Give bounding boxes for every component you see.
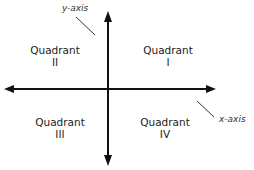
quadrant-3-label: Quadrant III xyxy=(25,116,95,140)
quadrant-numeral: IV xyxy=(130,128,200,140)
coordinate-plane xyxy=(0,0,254,170)
quadrant-4-label: Quadrant IV xyxy=(130,116,200,140)
quadrant-numeral: I xyxy=(133,56,203,68)
x-axis-leader-line xyxy=(197,101,214,117)
y-axis-up-arrow-icon xyxy=(104,11,112,22)
quadrant-word: Quadrant xyxy=(25,116,95,128)
x-axis-label: x-axis xyxy=(219,114,246,124)
y-axis-down-arrow-icon xyxy=(104,155,112,166)
quadrant-word: Quadrant xyxy=(20,44,90,56)
y-axis-label: y-axis xyxy=(62,3,88,13)
quadrant-1-label: Quadrant I xyxy=(133,44,203,68)
x-axis-left-arrow-icon xyxy=(4,85,14,93)
quadrant-numeral: III xyxy=(25,128,95,140)
x-axis-right-arrow-icon xyxy=(206,85,216,93)
y-axis-leader-line xyxy=(76,17,95,35)
quadrant-2-label: Quadrant II xyxy=(20,44,90,68)
quadrant-word: Quadrant xyxy=(130,116,200,128)
quadrant-word: Quadrant xyxy=(133,44,203,56)
quadrant-numeral: II xyxy=(20,56,90,68)
